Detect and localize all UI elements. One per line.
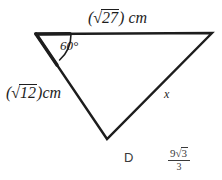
top-radical-icon: √27 [93, 9, 119, 26]
degree-symbol-icon: ° [73, 38, 78, 53]
fraction-denominator: 3 [177, 161, 182, 172]
side-label-top: (√27) cm [88, 9, 147, 26]
triangle-left-edge-accent [36, 34, 57, 65]
left-radical-icon: √12 [11, 84, 37, 101]
numerator-radicand: 3 [181, 147, 189, 159]
left-radicand: 12 [19, 84, 37, 101]
angle-value: 60 [60, 38, 73, 53]
numerator-radical-icon: √3 [176, 147, 189, 159]
top-radicand: 27 [101, 9, 119, 26]
fraction-numerator: 9√3 [168, 147, 190, 161]
left-unit-label: cm [42, 84, 61, 101]
top-unit-label: cm [128, 9, 147, 26]
side-label-left: (√12)cm [6, 84, 61, 101]
side-label-unknown: x [164, 88, 169, 100]
triangle-figure: (√27) cm (√12)cm 60° x D 9√3 3 [0, 0, 222, 180]
answer-choice-letter: D [124, 151, 133, 164]
answer-choice-fraction: 9√3 3 [168, 147, 190, 172]
top-close-paren: ) [119, 10, 124, 26]
angle-label: 60° [60, 39, 78, 52]
